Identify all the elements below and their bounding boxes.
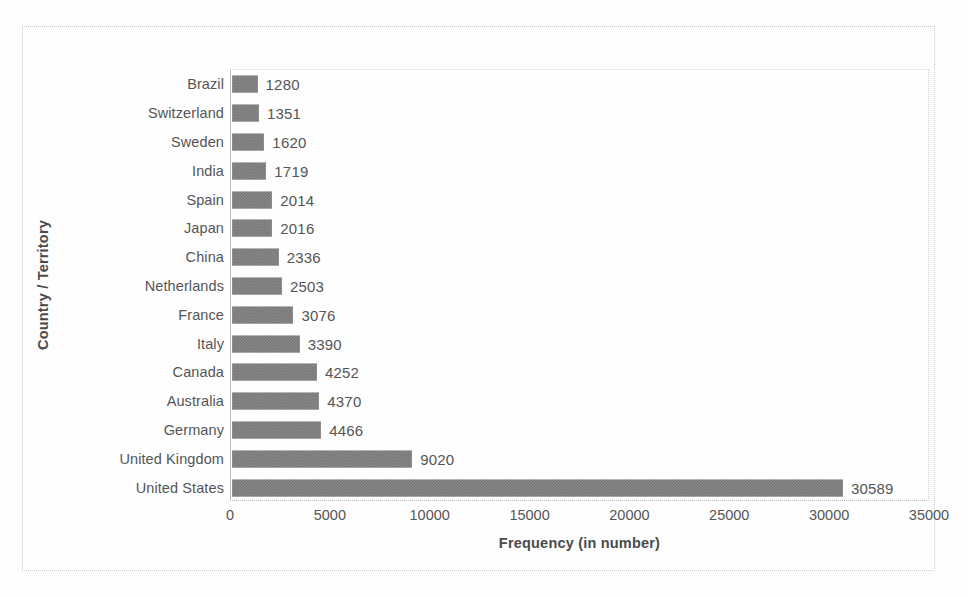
bar — [232, 306, 293, 323]
bar-value-label: 3076 — [301, 306, 335, 323]
bar-value-label: 1620 — [272, 133, 306, 150]
bar-value-label: 2503 — [290, 277, 324, 294]
bar-row: Canada4252 — [231, 358, 928, 387]
bar-value-label: 1719 — [274, 162, 308, 179]
bar-row: China2336 — [231, 243, 928, 272]
bar — [232, 364, 317, 381]
category-label: United Kingdom — [119, 451, 224, 467]
bar — [232, 76, 258, 93]
x-tick-label: 35000 — [909, 507, 949, 523]
bar — [232, 479, 843, 496]
plot-area: Brazil1280Switzerland1351Sweden1620India… — [230, 69, 929, 501]
bar — [232, 191, 272, 208]
category-label: India — [192, 163, 224, 179]
bar — [232, 220, 272, 237]
x-tick-label: 25000 — [709, 507, 749, 523]
bar-value-label: 1280 — [266, 76, 300, 93]
category-label: Germany — [164, 422, 224, 438]
bar — [232, 421, 321, 438]
category-label: Sweden — [171, 134, 224, 150]
bar-row: Italy3390 — [231, 329, 928, 358]
bar-value-label: 4252 — [325, 364, 359, 381]
category-label: Spain — [186, 192, 224, 208]
category-label: China — [186, 249, 224, 265]
bar-row: Japan2016 — [231, 214, 928, 243]
bar-row: India1719 — [231, 156, 928, 185]
x-tick-label: 15000 — [509, 507, 549, 523]
category-label: Japan — [184, 220, 224, 236]
bar-value-label: 4370 — [327, 393, 361, 410]
y-axis-title: Country / Territory — [31, 69, 55, 501]
bar-value-label: 3390 — [308, 335, 342, 352]
bar-row: United States30589 — [231, 473, 928, 502]
bar-row: United Kingdom9020 — [231, 444, 928, 473]
category-label: Italy — [197, 336, 224, 352]
bar — [232, 162, 266, 179]
bar-row: Germany4466 — [231, 416, 928, 445]
x-tick-label: 20000 — [609, 507, 649, 523]
bar-row: Brazil1280 — [231, 70, 928, 99]
category-label: Switzerland — [148, 105, 224, 121]
x-tick-label: 5000 — [314, 507, 346, 523]
bar — [232, 133, 264, 150]
bar — [232, 393, 319, 410]
category-label: Canada — [173, 364, 224, 380]
bar-row: Sweden1620 — [231, 128, 928, 157]
bar — [232, 450, 412, 467]
bar-value-label: 4466 — [329, 421, 363, 438]
x-axis-tick-labels: 05000100001500020000250003000035000 — [230, 507, 929, 531]
bar-row: Australia4370 — [231, 387, 928, 416]
bar-row: Spain2014 — [231, 185, 928, 214]
bar — [232, 249, 279, 266]
bar — [232, 277, 282, 294]
category-label: Brazil — [187, 76, 224, 92]
x-axis-title-label: Frequency (in number) — [499, 535, 660, 551]
x-axis-title: Frequency (in number) — [230, 535, 929, 551]
bar-value-label: 2014 — [280, 191, 314, 208]
x-tick-label: 0 — [226, 507, 234, 523]
x-tick-label: 10000 — [410, 507, 450, 523]
bar — [232, 105, 259, 122]
bar — [232, 335, 300, 352]
category-label: France — [178, 307, 224, 323]
x-tick-label: 30000 — [809, 507, 849, 523]
category-label: United States — [136, 480, 224, 496]
bar-row: Netherlands2503 — [231, 272, 928, 301]
bar-value-label: 1351 — [267, 105, 301, 122]
bar-row: Switzerland1351 — [231, 99, 928, 128]
y-axis-title-label: Country / Territory — [35, 220, 51, 350]
category-label: Australia — [167, 393, 224, 409]
chart-frame: Country / Territory Brazil1280Switzerlan… — [22, 26, 935, 571]
bar-value-label: 30589 — [851, 479, 894, 496]
bar-row: France3076 — [231, 300, 928, 329]
bar-value-label: 2336 — [287, 249, 321, 266]
category-label: Netherlands — [145, 278, 224, 294]
bar-value-label: 9020 — [420, 450, 454, 467]
bar-value-label: 2016 — [280, 220, 314, 237]
